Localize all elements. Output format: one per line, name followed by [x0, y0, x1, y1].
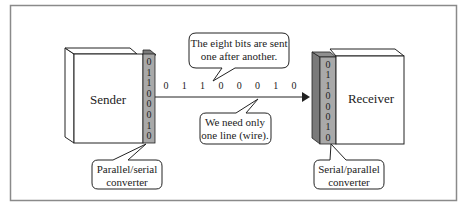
bit-value: 0 [326, 59, 331, 70]
callout-text: Serial/parallel [318, 163, 380, 175]
bit-value: 0 [326, 111, 331, 122]
bit-value: 1 [182, 80, 187, 91]
receiver-label: Receiver [348, 91, 395, 106]
bit-value: 1 [147, 120, 152, 131]
bit-value: 0 [164, 80, 169, 91]
bit-value: 1 [273, 80, 278, 91]
callout-text: one after another. [201, 50, 278, 62]
bit-value: 1 [326, 80, 331, 91]
bit-value: 1 [326, 121, 331, 132]
bit-value: 0 [326, 101, 331, 112]
callout-text: one line (wire). [201, 129, 269, 142]
bit-value: 0 [237, 80, 242, 91]
callout-text: converter [106, 176, 148, 188]
bit-value: 1 [200, 80, 205, 91]
serial-transmission-diagram: Sender 01100010 01100010 01100010 Receiv… [0, 0, 467, 207]
bit-value: 0 [218, 80, 223, 91]
callout-text: The eight bits are sent [190, 37, 287, 49]
bit-value: 1 [147, 67, 152, 78]
bit-value: 0 [326, 90, 331, 101]
sender-label: Sender [90, 92, 127, 107]
bit-value: 0 [147, 98, 152, 109]
bit-value: 0 [147, 56, 152, 67]
parallel-serial-converter: 01100010 [143, 50, 156, 143]
bit-value: 1 [147, 77, 152, 88]
receiver-box: Receiver [330, 49, 404, 144]
callout-text: converter [328, 176, 370, 188]
bit-value: 0 [147, 130, 152, 141]
receiver-converter: 01100010 [312, 52, 336, 144]
bit-value: 0 [326, 132, 331, 143]
bit-value: 0 [255, 80, 260, 91]
bit-value: 0 [292, 80, 297, 91]
sender-box: Sender [65, 48, 143, 143]
callout-text: We need only [205, 116, 266, 128]
bit-value: 0 [147, 109, 152, 120]
bit-value: 1 [326, 69, 331, 80]
bit-value: 0 [147, 88, 152, 99]
callout-text: Parallel/serial [97, 163, 157, 175]
